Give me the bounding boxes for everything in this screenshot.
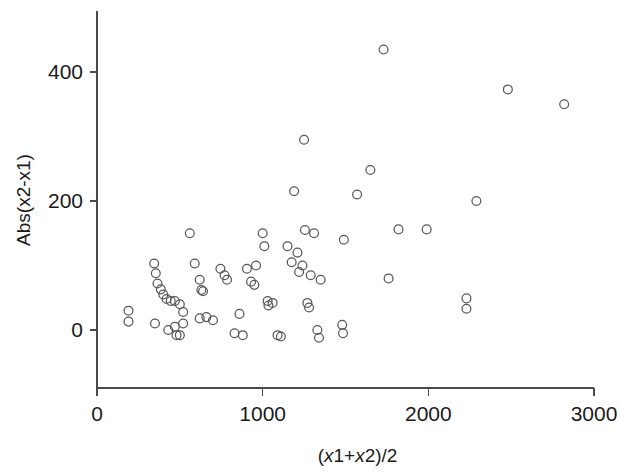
data-point: [306, 271, 315, 280]
data-point: [235, 309, 244, 318]
data-point: [230, 329, 239, 338]
data-point: [252, 261, 261, 270]
data-point: [310, 229, 319, 238]
axis-layer: [97, 11, 594, 388]
tick-layer: [90, 72, 594, 396]
data-point: [287, 258, 296, 267]
x-axis-title: (x1+x2)/2: [318, 445, 398, 466]
data-point: [190, 259, 199, 268]
data-point: [339, 329, 348, 338]
data-point: [179, 308, 188, 317]
data-point: [472, 197, 481, 206]
y-tick-label: 0: [71, 318, 83, 341]
x-tick-label: 1000: [239, 402, 286, 425]
data-point: [276, 332, 285, 341]
data-point: [283, 242, 292, 251]
y-tick-label: 400: [48, 60, 83, 83]
data-point: [179, 319, 188, 328]
data-point: [243, 264, 252, 273]
y-axis-title: Abs(x2-x1): [13, 154, 34, 246]
data-point: [338, 320, 347, 329]
x-tick-label: 0: [91, 402, 103, 425]
data-point: [503, 85, 512, 94]
data-point: [124, 317, 133, 326]
data-point: [216, 264, 225, 273]
x-tick-label: 2000: [405, 402, 452, 425]
data-point: [151, 319, 160, 328]
data-point: [462, 294, 471, 303]
data-point: [238, 331, 247, 340]
data-point: [185, 229, 194, 238]
data-point: [258, 229, 267, 238]
chart-canvas: 02004000100020003000 (x1+x2)/2Abs(x2-x1): [0, 0, 620, 472]
y-tick-label: 200: [48, 189, 83, 212]
data-point: [422, 225, 431, 234]
data-point: [316, 275, 325, 284]
tick-label-layer: 02004000100020003000: [48, 60, 617, 425]
data-point: [293, 248, 302, 257]
data-point: [353, 190, 362, 199]
data-point: [124, 306, 133, 315]
data-point: [260, 242, 269, 251]
data-points-layer: [124, 45, 568, 342]
data-point: [379, 45, 388, 54]
data-point: [301, 226, 310, 235]
scatter-plot-figure: 02004000100020003000 (x1+x2)/2Abs(x2-x1): [0, 0, 620, 472]
data-point: [462, 304, 471, 313]
data-point: [300, 135, 309, 144]
data-point: [150, 259, 159, 268]
data-point: [151, 269, 160, 278]
data-point: [384, 274, 393, 283]
data-point: [560, 100, 569, 109]
data-point: [366, 166, 375, 175]
data-point: [339, 235, 348, 244]
data-point: [195, 275, 204, 284]
data-point: [290, 187, 299, 196]
data-point: [394, 225, 403, 234]
x-tick-label: 3000: [571, 402, 618, 425]
